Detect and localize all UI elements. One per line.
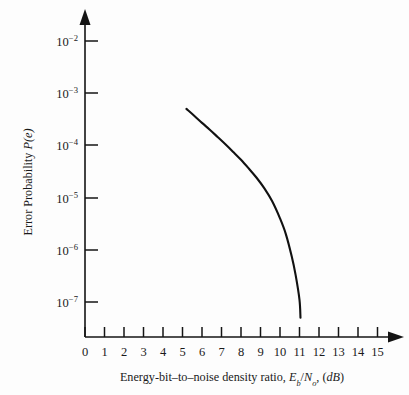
y-axis-title: Error Probability P(e) <box>21 129 35 236</box>
x-axis-arrow-icon <box>388 332 404 343</box>
y-tick-label: 10−7 <box>56 294 78 310</box>
x-axis-ticks <box>85 327 378 337</box>
x-tick-label: 7 <box>218 345 224 359</box>
chart-svg: 10−2 10−3 10−4 10−5 10−6 10−7 <box>0 0 409 395</box>
x-axis-title: Energy-bit–to–noise density ratio, Eb/No… <box>120 370 344 388</box>
x-tick-label: 5 <box>179 345 185 359</box>
x-tick-label: 9 <box>257 345 263 359</box>
x-tick-label: 8 <box>238 345 244 359</box>
x-tick-label: 1 <box>101 345 107 359</box>
y-tick-label: 10−6 <box>56 242 78 258</box>
ber-curve-line <box>186 109 300 318</box>
y-tick-label: 10−3 <box>56 85 78 101</box>
x-tick-label: 2 <box>121 345 127 359</box>
x-tick-label: 15 <box>371 345 384 359</box>
y-tick-label: 10−5 <box>56 190 78 206</box>
x-tick-label: 6 <box>199 345 205 359</box>
y-tick-label: 10−4 <box>56 137 78 153</box>
chart-figure: 10−2 10−3 10−4 10−5 10−6 10−7 <box>0 0 409 395</box>
x-axis-tick-labels: 0 1 2 3 4 5 6 7 8 9 10 11 12 13 14 15 <box>82 345 384 359</box>
x-tick-label: 13 <box>332 345 345 359</box>
x-tick-label: 4 <box>160 345 167 359</box>
y-axis-ticks <box>85 41 98 302</box>
x-tick-label: 0 <box>82 345 88 359</box>
y-axis-tick-labels: 10−2 10−3 10−4 10−5 10−6 10−7 <box>56 33 78 310</box>
x-tick-label: 3 <box>140 345 146 359</box>
y-axis-arrow-icon <box>80 9 91 25</box>
x-tick-label: 11 <box>293 345 305 359</box>
x-tick-label: 14 <box>352 345 365 359</box>
y-tick-label: 10−2 <box>56 33 78 49</box>
x-tick-label: 10 <box>274 345 287 359</box>
x-tick-label: 12 <box>313 345 326 359</box>
